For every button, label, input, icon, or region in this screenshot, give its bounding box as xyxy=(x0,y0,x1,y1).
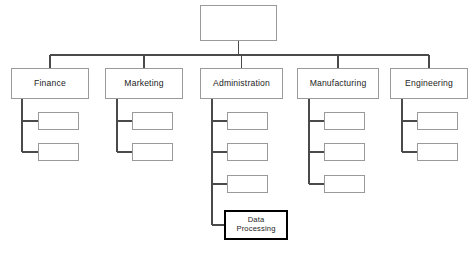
dept-node-administration[interactable]: Administration xyxy=(200,68,283,99)
dept-node-finance[interactable]: Finance xyxy=(11,68,89,99)
leaf-node-marketing-1[interactable] xyxy=(132,112,173,130)
node-label: Data Processing xyxy=(234,216,277,234)
node-label: Finance xyxy=(32,78,68,88)
leaf-node-engineering-2[interactable] xyxy=(417,143,458,161)
dept-node-marketing[interactable]: Marketing xyxy=(105,68,183,99)
leaf-node-admin-1[interactable] xyxy=(227,112,268,130)
leaf-node-finance-1[interactable] xyxy=(38,112,79,130)
leaf-node-engineering-1[interactable] xyxy=(417,112,458,130)
org-chart-canvas: FinanceMarketingAdministrationData Proce… xyxy=(0,0,476,255)
leaf-node-finance-2[interactable] xyxy=(38,143,79,161)
node-label: Marketing xyxy=(122,78,165,88)
leaf-node-manufacturing-1[interactable] xyxy=(324,112,365,130)
leaf-node-admin-3[interactable] xyxy=(227,175,268,193)
node-label: Engineering xyxy=(403,78,455,88)
leaf-node-marketing-2[interactable] xyxy=(132,143,173,161)
dept-node-engineering[interactable]: Engineering xyxy=(390,68,468,99)
leaf-node-manufacturing-3[interactable] xyxy=(324,175,365,193)
leaf-node-admin-data-processing[interactable]: Data Processing xyxy=(224,210,288,240)
node-label: Administration xyxy=(211,78,272,88)
dept-node-manufacturing[interactable]: Manufacturing xyxy=(297,68,379,99)
root-node[interactable] xyxy=(200,5,277,41)
leaf-node-admin-2[interactable] xyxy=(227,143,268,161)
node-label: Manufacturing xyxy=(308,78,369,88)
leaf-node-manufacturing-2[interactable] xyxy=(324,143,365,161)
